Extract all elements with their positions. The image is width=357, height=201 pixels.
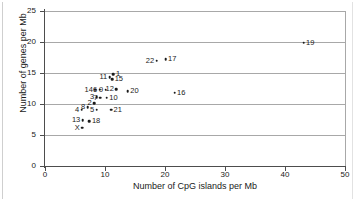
figure-left-border xyxy=(2,2,3,199)
data-point-label: 18 xyxy=(92,118,100,126)
data-point xyxy=(110,108,113,111)
x-tick-label-0: 0 xyxy=(33,171,57,179)
data-point-label: 17 xyxy=(168,56,176,64)
plot-right-border xyxy=(345,11,346,166)
gridline-y-25 xyxy=(45,11,345,12)
data-point-label: X xyxy=(75,124,80,132)
data-point xyxy=(111,78,114,81)
gridline-y-15 xyxy=(45,73,345,74)
data-point xyxy=(115,88,118,91)
data-point xyxy=(94,88,97,91)
data-point-label: 19 xyxy=(306,39,314,47)
data-point xyxy=(88,120,91,123)
y-tick-5 xyxy=(40,135,44,136)
data-point xyxy=(302,41,305,44)
data-point-label: 9 xyxy=(99,86,103,94)
data-point-label: 22 xyxy=(146,57,154,64)
data-point-label: 12 xyxy=(106,85,114,93)
y-tick-25 xyxy=(40,11,44,12)
data-point xyxy=(99,96,102,99)
x-tick-label-30: 30 xyxy=(213,171,237,179)
x-axis-title: Number of CpG islands per Mb xyxy=(45,181,345,191)
y-tick-15 xyxy=(40,73,44,74)
x-axis-line xyxy=(44,166,346,167)
data-point-label: 11 xyxy=(100,74,108,82)
gridline-y-20 xyxy=(45,42,345,43)
figure-right-border xyxy=(352,2,353,199)
scatter-plot-figure: 0510152025 01020304050 12345678910111213… xyxy=(0,0,357,201)
data-point-label: 5 xyxy=(90,106,94,114)
y-tick-20 xyxy=(40,42,44,43)
gridline-y-5 xyxy=(45,135,345,136)
data-point xyxy=(95,108,98,111)
data-point xyxy=(126,90,129,93)
data-point xyxy=(173,92,176,95)
y-tick-0 xyxy=(40,166,44,167)
data-point xyxy=(81,126,84,129)
data-point-label: 20 xyxy=(130,87,138,95)
data-point xyxy=(86,106,89,109)
data-point-label: 21 xyxy=(114,106,122,114)
x-tick-label-10: 10 xyxy=(93,171,117,179)
data-point-label: 14 xyxy=(85,86,93,94)
x-tick-label-20: 20 xyxy=(153,171,177,179)
data-point-label: 7 xyxy=(94,94,98,102)
data-point-label: 8 xyxy=(81,103,85,111)
data-point xyxy=(164,58,167,61)
y-tick-10 xyxy=(40,104,44,105)
data-point-label: 15 xyxy=(115,75,123,83)
data-point-label: 10 xyxy=(109,94,117,102)
data-point xyxy=(155,59,158,62)
data-point xyxy=(105,96,108,99)
y-tick-label-0: 0 xyxy=(14,162,36,170)
data-point-label: 16 xyxy=(177,89,185,97)
x-tick-label-40: 40 xyxy=(273,171,297,179)
x-tick-label-50: 50 xyxy=(333,171,357,179)
data-point xyxy=(81,119,84,122)
data-point-label: 4 xyxy=(75,106,79,114)
y-axis-title: Number of genes per Mb xyxy=(18,0,28,143)
